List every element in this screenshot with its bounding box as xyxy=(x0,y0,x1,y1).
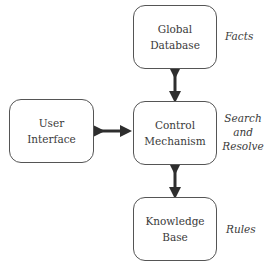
annotation-line: Search xyxy=(221,111,265,125)
node-label: Control xyxy=(155,117,195,133)
node-label: User xyxy=(39,115,64,131)
node-label: Database xyxy=(150,37,200,53)
node-user-interface: User Interface xyxy=(9,99,94,163)
annotation-line: and xyxy=(221,125,265,139)
node-label: Knowledge xyxy=(145,213,204,229)
annotation-line: Resolve xyxy=(221,139,265,153)
node-label: Mechanism xyxy=(144,133,205,149)
node-knowledge-base: Knowledge Base xyxy=(133,197,217,261)
annotation-rules: Rules xyxy=(226,222,256,236)
node-label: Interface xyxy=(27,131,76,147)
node-label: Global xyxy=(158,21,192,37)
annotation-facts: Facts xyxy=(225,29,253,43)
annotation-search-and-resolve: Search and Resolve xyxy=(221,111,265,153)
node-label: Base xyxy=(162,229,188,245)
node-control-mechanism: Control Mechanism xyxy=(133,101,217,165)
node-global-database: Global Database xyxy=(133,5,217,69)
